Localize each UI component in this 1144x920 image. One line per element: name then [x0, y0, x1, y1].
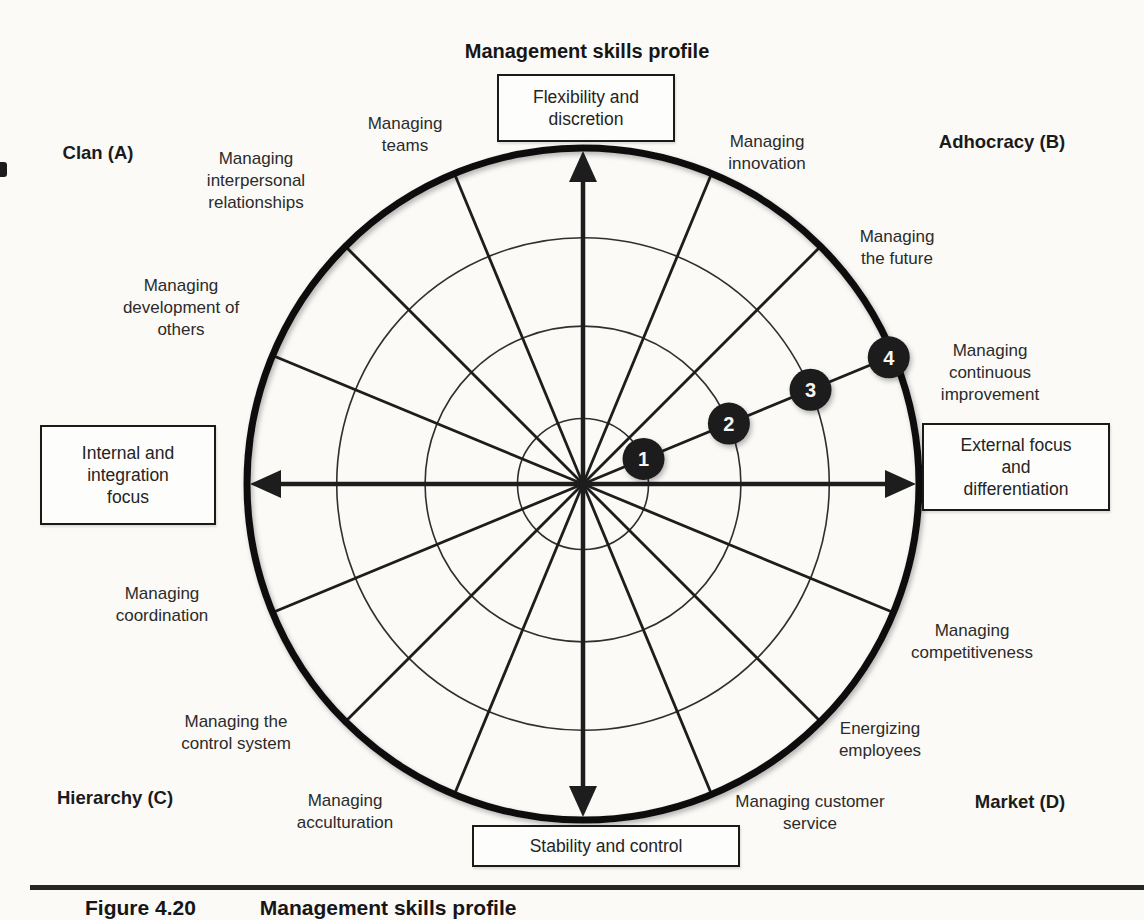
skill-spoke [347, 484, 583, 720]
skill-label-managing-interpersonal-relationships: Managing interpersonal relationships [207, 148, 305, 214]
diagram-title: Management skills profile [465, 40, 710, 63]
skill-label-managing-coordination: Managing coordination [116, 583, 209, 627]
caption-divider-rule [30, 885, 1144, 890]
skill-spoke [583, 484, 819, 720]
skill-label-managing-the-control-system: Managing the control system [181, 711, 291, 755]
scan-artifact-mark [0, 162, 7, 177]
figure-caption: Figure 4.20 Management skills profile [85, 896, 516, 920]
skill-label-managing-development-of-others: Managing development of others [123, 275, 239, 341]
profile-point-label: 2 [723, 413, 734, 435]
axis-arrow-right-head [885, 470, 916, 498]
skill-spoke [583, 248, 819, 484]
skill-spoke [347, 248, 583, 484]
skill-label-managing-competitiveness: Managing competitiveness [911, 620, 1033, 664]
skill-label-managing-teams: Managing teams [368, 113, 443, 157]
skill-label-managing-innovation: Managing innovation [728, 131, 806, 175]
profile-point-label: 3 [805, 379, 816, 401]
axis-box-external-focus-differentiation: External focus and differentiation [922, 423, 1110, 511]
axis-box-stability-control: Stability and control [472, 825, 740, 867]
quadrant-label-clan: Clan (A) [63, 142, 134, 164]
quadrant-label-market: Market (D) [975, 791, 1065, 813]
skill-label-managing-customer-service: Managing customer service [735, 791, 884, 835]
axis-box-internal-integration-focus: Internal and integration focus [40, 425, 216, 525]
axis-box-flexibility-discretion: Flexibility and discretion [497, 74, 675, 142]
skill-label-managing-acculturation: Managing acculturation [297, 790, 393, 834]
axis-arrow-left-head [250, 470, 281, 498]
quadrant-label-hierarchy: Hierarchy (C) [57, 787, 173, 809]
skill-label-managing-the-future: Managing the future [860, 226, 935, 270]
skill-label-managing-continuous-improvement: Managing continuous improvement [941, 340, 1039, 406]
profile-point-label: 4 [883, 347, 895, 369]
figure-caption-title: Management skills profile [260, 896, 517, 919]
figure-caption-number: Figure 4.20 [85, 896, 196, 919]
axis-arrow-up-head [569, 151, 597, 182]
profile-point-label: 1 [638, 448, 649, 470]
skill-label-energizing-employees: Energizing employees [839, 718, 921, 762]
axis-arrow-down-head [569, 786, 597, 817]
quadrant-label-adhocracy: Adhocracy (B) [939, 131, 1065, 153]
